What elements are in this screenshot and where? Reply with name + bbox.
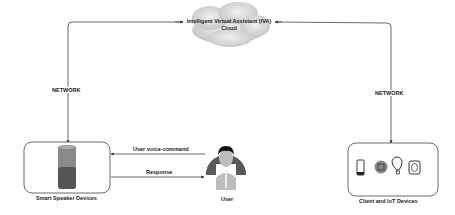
- client-iot-label: Client and IoT Devices: [359, 198, 418, 204]
- left-network-label: NETWORK: [52, 87, 80, 93]
- network-edge-left: [68, 22, 183, 143]
- user-avatar: [206, 146, 246, 190]
- cloud-subtitle: Cloud: [183, 25, 275, 32]
- right-network-label: NETWORK: [375, 90, 403, 96]
- smart-speaker-label: Smart Speaker Devices: [36, 195, 97, 201]
- network-edge-right: [278, 22, 391, 143]
- cloud-title: Intelligent Virtual Assistant (IVA): [183, 18, 275, 25]
- user-label: User: [221, 196, 233, 202]
- processor-icon: [375, 161, 388, 174]
- smart-speaker-icon: [58, 145, 76, 189]
- response-label: Response: [146, 169, 172, 175]
- client-iot-box: [348, 143, 438, 196]
- voice-command-label: User voice-command: [133, 146, 189, 152]
- cloud-label: Intelligent Virtual Assistant (IVA) Clou…: [183, 18, 275, 31]
- diagram-canvas: [0, 0, 455, 215]
